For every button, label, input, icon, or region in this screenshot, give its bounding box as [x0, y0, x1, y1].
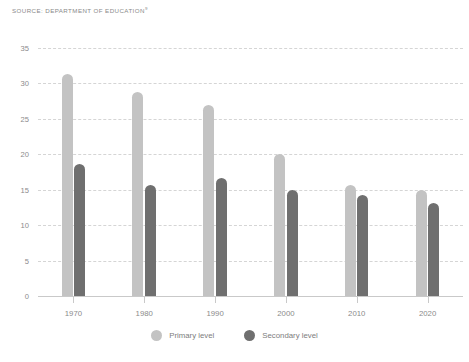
legend-dot-secondary: [244, 330, 255, 341]
bar-group-2000: [251, 48, 322, 296]
bar-2020-secondary: [428, 203, 439, 296]
x-axis-tick-1970: [73, 296, 74, 303]
y-axis-label-0: 0: [25, 292, 29, 301]
bar-1980-secondary: [145, 185, 156, 296]
y-axis-label-30: 30: [21, 79, 29, 88]
legend-item-secondary-level: Secondary level: [244, 330, 317, 341]
legend-label: Secondary level: [262, 331, 317, 340]
bar-2020-primary: [416, 190, 427, 296]
x-axis-label-1970: 1970: [65, 309, 82, 318]
x-axis-tick-2020: [428, 296, 429, 303]
legend-label: Primary level: [169, 331, 214, 340]
source-note-text: SOURCE: DEPARTMENT OF EDUCATION: [12, 7, 145, 14]
x-axis-tick-1980: [144, 296, 145, 303]
bar-group-1980: [109, 48, 180, 296]
x-axis-tick-2010: [357, 296, 358, 303]
y-axis-label-10: 10: [21, 221, 29, 230]
x-axis-label-2010: 2010: [348, 309, 365, 318]
source-note: SOURCE: DEPARTMENT OF EDUCATION9: [12, 6, 148, 14]
bar-1990-secondary: [216, 178, 227, 296]
bar-2000-secondary: [287, 190, 298, 296]
bar-2010-secondary: [357, 195, 368, 296]
x-axis-tick-1990: [215, 296, 216, 303]
bar-1980-primary: [132, 92, 143, 296]
y-axis-label-35: 35: [21, 44, 29, 53]
source-note-superscript: 9: [145, 6, 148, 11]
x-axis-label-1980: 1980: [136, 309, 153, 318]
y-axis-label-20: 20: [21, 150, 29, 159]
bar-1990-primary: [203, 105, 214, 296]
x-axis-label-1990: 1990: [206, 309, 223, 318]
legend-dot-primary: [151, 330, 162, 341]
bar-group-1990: [180, 48, 251, 296]
x-axis-tick-2000: [286, 296, 287, 303]
bar-2000-primary: [274, 154, 285, 296]
chart-legend: Primary levelSecondary level: [0, 330, 469, 341]
y-axis-label-5: 5: [25, 256, 29, 265]
legend-item-primary-level: Primary level: [151, 330, 214, 341]
plot-area: 05101520253035 197019801990200020102020: [38, 48, 463, 296]
bar-group-2010: [321, 48, 392, 296]
x-axis-label-2020: 2020: [419, 309, 436, 318]
x-axis-label-2000: 2000: [277, 309, 294, 318]
bar-group-2020: [392, 48, 463, 296]
gridline-0: [38, 296, 463, 297]
bar-2010-primary: [345, 185, 356, 296]
bar-1970-primary: [62, 74, 73, 296]
y-axis-label-15: 15: [21, 185, 29, 194]
bar-group-1970: [38, 48, 109, 296]
bar-chart: 05101520253035 197019801990200020102020: [0, 32, 469, 307]
bar-1970-secondary: [74, 164, 85, 297]
y-axis-label-25: 25: [21, 114, 29, 123]
